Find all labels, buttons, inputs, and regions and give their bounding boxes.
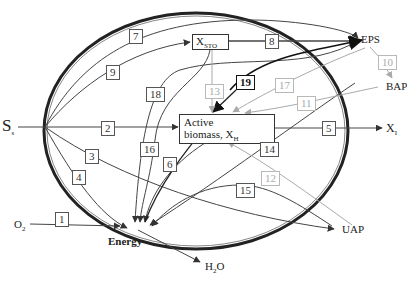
eps-label: EPS [361, 34, 380, 45]
process-3: 3 [85, 149, 99, 164]
process-17: 17 [275, 78, 294, 93]
diagram-canvas: Ss O2 Energy H2O EPS BAP XI UAP XSTO Act… [0, 0, 407, 284]
oxygen-label: O2 [14, 219, 25, 233]
substrate-label: Ss [2, 117, 14, 137]
process-6: 6 [163, 157, 177, 172]
process-13: 13 [205, 84, 224, 99]
storage-box: XSTO [192, 34, 229, 50]
arrow-9 [45, 42, 190, 127]
process-4: 4 [72, 170, 86, 185]
water-label: H2O [205, 261, 224, 275]
process-8: 8 [265, 34, 279, 49]
process-19: 19 [236, 75, 255, 90]
process-5: 5 [322, 121, 336, 136]
process-1: 1 [55, 212, 69, 227]
energy-label: Energy [108, 236, 142, 247]
process-18: 18 [146, 87, 165, 102]
process-15: 15 [236, 183, 255, 198]
process-16: 16 [140, 142, 159, 157]
process-12: 12 [261, 171, 280, 186]
arrow-14 [150, 83, 355, 225]
process-14: 14 [260, 142, 279, 157]
inert-label: XI [386, 122, 397, 137]
active-biomass-box: Activebiomass, XH [179, 114, 275, 144]
process-7: 7 [129, 29, 143, 44]
bap-label: BAP [386, 81, 407, 92]
process-9: 9 [106, 65, 120, 80]
process-2: 2 [101, 121, 115, 136]
process-10: 10 [378, 55, 397, 70]
uap-label: UAP [342, 224, 364, 235]
process-11: 11 [297, 96, 316, 111]
